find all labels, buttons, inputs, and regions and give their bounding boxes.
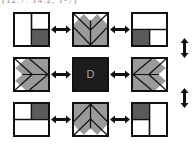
block-bottom-center-art [72,102,109,137]
grid-gap [72,92,109,102]
block-grid: D [13,12,168,137]
block-middle-left-art [13,57,50,92]
block-top-center-art [72,12,109,47]
grid-gap [109,47,131,57]
arrow-h-r3-c1 [50,102,72,137]
arrow-v-top [179,38,190,58]
grid-gap [131,92,168,102]
arrow-h-r3-c2 [109,102,131,137]
block-middle-right-art [131,57,168,92]
arrow-h-r1-c2 [109,12,131,47]
clipped-caption-text: (12.7. 14.2, 1-7) [2,0,102,7]
block-middle-left[interactable] [13,57,50,92]
arrow-v-bottom [179,88,190,108]
block-bottom-left-art [13,102,50,137]
block-bottom-right[interactable] [131,102,168,137]
grid-gap [13,92,50,102]
arrow-h-r2-c1 [50,57,72,92]
diagram-figure: (12.7. 14.2, 1-7) [0,0,195,150]
block-top-center[interactable] [72,12,109,47]
grid-gap [131,47,168,57]
block-middle-right[interactable] [131,57,168,92]
grid-gap [50,47,72,57]
grid-gap [13,47,50,57]
block-bottom-right-art [131,102,168,137]
center-block-label: D [87,69,95,80]
grid-gap [109,92,131,102]
block-top-left[interactable] [13,12,50,47]
grid-gap [50,92,72,102]
block-center[interactable]: D [72,57,109,92]
center-block-art: D [72,57,109,92]
block-top-right-art [131,12,168,47]
block-top-right[interactable] [131,12,168,47]
block-bottom-left[interactable] [13,102,50,137]
arrow-h-r1-c1 [50,12,72,47]
arrow-h-r2-c2 [109,57,131,92]
block-bottom-center[interactable] [72,102,109,137]
block-top-left-art [13,12,50,47]
grid-gap [72,47,109,57]
